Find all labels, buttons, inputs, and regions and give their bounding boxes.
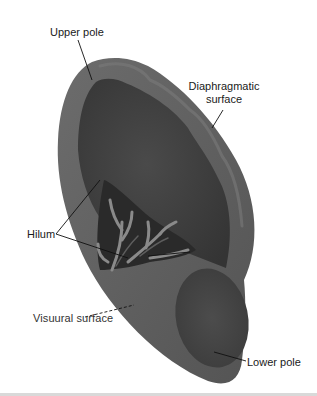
- spleen-diagram: [0, 0, 317, 396]
- label-diaphragmatic-line2: surface: [184, 93, 264, 106]
- label-visceral-surface: Visuural surface: [33, 312, 113, 325]
- label-diaphragmatic-line1: Diaphragmatic: [184, 80, 264, 93]
- label-upper-pole: Upper pole: [50, 26, 104, 39]
- label-lower-pole: Lower pole: [247, 356, 301, 369]
- label-hilum: Hilum: [27, 228, 55, 241]
- label-diaphragmatic-surface: Diaphragmatic surface: [184, 80, 264, 106]
